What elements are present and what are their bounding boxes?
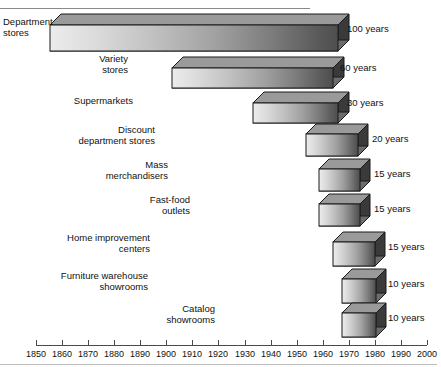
category-label-line: Mass: [106, 159, 168, 170]
category-label-line: Catalog: [166, 303, 215, 314]
category-label-line: stores: [3, 27, 53, 38]
bar-3d-faces: [50, 14, 351, 53]
x-axis-tick-label: 1860: [48, 349, 76, 359]
value-label-mass-merchandisers: 15 years: [374, 168, 410, 179]
category-label-line: merchandisers: [106, 170, 168, 181]
x-axis-tick-label: 1920: [204, 349, 232, 359]
value-label-fast-food-outlets: 15 years: [374, 203, 410, 214]
x-axis-tick-label: 1890: [126, 349, 154, 359]
bar-3d-faces: [172, 57, 346, 90]
value-label-supermarkets: 30 years: [347, 97, 383, 108]
x-axis-tick: [114, 340, 115, 345]
category-label-line: Department: [3, 16, 53, 27]
bar-3d-faces: [253, 92, 351, 125]
category-label-line: Variety: [99, 53, 128, 64]
x-axis-tick-label: 1850: [22, 349, 50, 359]
x-axis-tick-label: 1880: [100, 349, 128, 359]
category-label-variety-stores: Varietystores: [99, 53, 128, 75]
bar-mass-merchandisers: [319, 159, 370, 191]
category-label-line: outlets: [150, 205, 190, 216]
bar-home-improvement-centers: [333, 232, 385, 266]
x-axis-tick-label: 1910: [178, 349, 206, 359]
bar-3d-faces: [306, 124, 370, 158]
x-axis-tick: [62, 340, 63, 345]
x-axis-tick-label: 1950: [283, 349, 311, 359]
x-axis-tick-label: 1980: [361, 349, 389, 359]
bar-3d-faces: [342, 303, 388, 339]
x-axis-tick: [349, 340, 350, 345]
category-label-supermarkets: Supermarkets: [74, 95, 133, 106]
x-axis-tick-label: 2000: [413, 349, 441, 359]
x-axis-tick: [245, 340, 246, 345]
category-label-home-improvement-centers: Home improvementcenters: [67, 232, 150, 254]
category-label-line: Furniture warehouse: [61, 270, 148, 281]
category-label-line: Home improvement: [67, 232, 150, 243]
category-label-mass-merchandisers: Massmerchandisers: [106, 159, 168, 181]
category-label-department-stores: Departmentstores: [3, 16, 53, 38]
category-label-furniture-warehouse-showrooms: Furniture warehouseshowrooms: [61, 270, 148, 292]
x-axis-tick: [192, 340, 193, 345]
bar-department-stores: [50, 14, 349, 51]
value-label-variety-stores: 60 years: [340, 62, 376, 73]
x-axis-tick: [271, 340, 272, 345]
top-divider-rule: [0, 8, 310, 9]
x-axis-tick-label: 1970: [335, 349, 363, 359]
category-label-line: department stores: [78, 135, 155, 146]
x-axis-tick: [323, 340, 324, 345]
category-label-line: Fast-food: [150, 194, 190, 205]
category-label-line: showrooms: [61, 281, 148, 292]
x-axis-tick-label: 1930: [231, 349, 259, 359]
bottom-divider-rule: [0, 364, 437, 365]
category-label-fast-food-outlets: Fast-foodoutlets: [150, 194, 190, 216]
bar-discount-department-stores: [306, 124, 368, 156]
category-label-catalog-showrooms: Catalogshowrooms: [166, 303, 215, 325]
x-axis-tick: [140, 340, 141, 345]
x-axis-tick: [218, 340, 219, 345]
x-axis-tick: [297, 340, 298, 345]
x-axis-tick-label: 1900: [152, 349, 180, 359]
x-axis-tick: [88, 340, 89, 345]
category-label-line: stores: [99, 64, 128, 75]
x-axis-tick: [427, 340, 428, 345]
value-label-department-stores: 100 years: [347, 23, 389, 34]
bar-3d-faces: [333, 232, 387, 268]
bar-3d-faces: [319, 159, 372, 193]
x-axis-tick-label: 1960: [309, 349, 337, 359]
value-label-furniture-warehouse-showrooms: 10 years: [388, 278, 424, 289]
value-label-catalog-showrooms: 10 years: [388, 312, 424, 323]
category-label-line: centers: [67, 243, 150, 254]
x-axis-tick-label: 1870: [74, 349, 102, 359]
x-axis-tick: [166, 340, 167, 345]
x-axis-tick-label: 1990: [387, 349, 415, 359]
bar-furniture-warehouse-showrooms: [342, 269, 386, 303]
bar-catalog-showrooms: [342, 303, 386, 337]
x-axis-tick: [375, 340, 376, 345]
bar-variety-stores: [172, 57, 344, 88]
x-axis-tick-label: 1940: [257, 349, 285, 359]
x-axis-tick: [401, 340, 402, 345]
category-label-line: Discount: [78, 124, 155, 135]
value-label-discount-department-stores: 20 years: [372, 133, 408, 144]
bar-3d-faces: [342, 269, 388, 305]
x-axis-tick: [36, 340, 37, 345]
bar-3d-faces: [319, 194, 372, 228]
x-axis-line: [36, 345, 427, 346]
category-label-line: Supermarkets: [74, 95, 133, 106]
category-label-line: showrooms: [166, 314, 215, 325]
bar-fast-food-outlets: [319, 194, 370, 226]
bar-supermarkets: [253, 92, 349, 123]
value-label-home-improvement-centers: 15 years: [388, 241, 424, 252]
category-label-discount-department-stores: Discountdepartment stores: [78, 124, 155, 146]
